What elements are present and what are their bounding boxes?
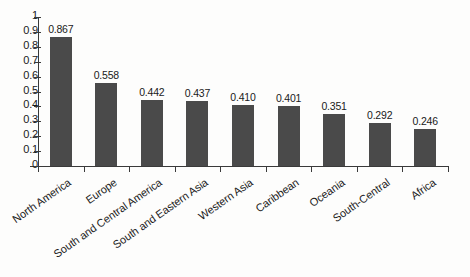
x-axis-tick-mark (448, 166, 449, 172)
x-axis-tick-mark (175, 166, 176, 172)
x-axis-tick-mark (84, 166, 85, 172)
x-axis-tick-mark (129, 166, 130, 172)
x-axis-tick-mark (220, 166, 221, 172)
x-axis-tick-mark (311, 166, 312, 172)
x-axis-tick-mark (266, 166, 267, 172)
x-axis-category-label: Europe (83, 176, 118, 206)
x-axis-tick-mark (402, 166, 403, 172)
x-axis-tick-mark (357, 166, 358, 172)
x-axis-category-label: Oceania (307, 176, 347, 209)
x-axis-category-label: North America (10, 176, 73, 225)
x-axis-category-label: Caribbean (253, 176, 301, 214)
x-axis-category-label: Africa (408, 176, 437, 202)
bar-chart: 10.90.80.70.60.50.40.30.20.10 0.8670.558… (0, 0, 470, 277)
x-axis-labels: North AmericaEuropeSouth and Central Ame… (0, 0, 470, 277)
x-axis-tick-mark (38, 166, 39, 172)
